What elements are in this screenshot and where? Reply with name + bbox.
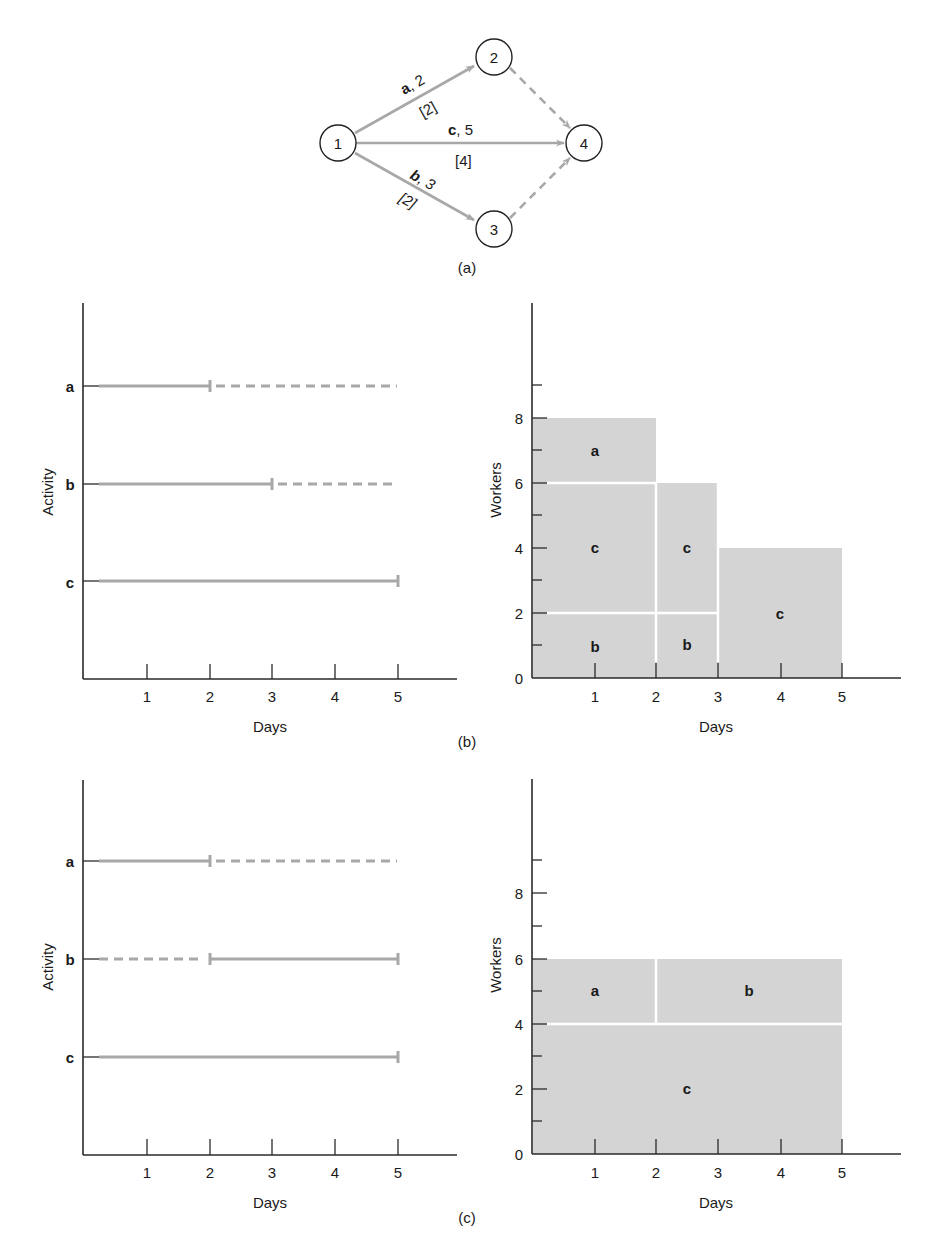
svg-text:[2]: [2]	[396, 188, 420, 212]
dummy-edge-3-4	[510, 158, 570, 218]
node-3-label: 3	[490, 221, 498, 238]
x-tick-1: 1	[143, 1164, 151, 1181]
y-tick-8: 8	[515, 410, 523, 427]
x-tick-1: 1	[143, 688, 151, 705]
y-axis-label: Workers	[487, 937, 504, 993]
caption-a: (a)	[458, 259, 476, 276]
y-tick-0: 0	[515, 1146, 523, 1163]
x-tick-4: 4	[777, 688, 785, 705]
x-tick-3: 3	[268, 1164, 276, 1181]
x-tick-1: 1	[591, 1164, 599, 1181]
x-tick-5: 5	[394, 1164, 402, 1181]
activity-b-label: b	[65, 951, 74, 968]
x-tick-1: 1	[591, 688, 599, 705]
activity-b-label: b	[65, 476, 74, 493]
y-tick-6: 6	[515, 475, 523, 492]
y-tick-0: 0	[515, 670, 523, 687]
block-label-a: a	[591, 982, 600, 999]
y-tick-8: 8	[515, 885, 523, 902]
block-label-c: c	[683, 1080, 691, 1097]
x-axis-label: Days	[253, 718, 287, 735]
block-days-0-5	[533, 959, 842, 1154]
node-1-label: 1	[334, 135, 342, 152]
y-axis-label: Activity	[39, 468, 56, 516]
edge-b-label: b, 3	[408, 166, 439, 194]
activity-c-label: c	[66, 1049, 74, 1066]
workers-chart-b: 0 2 4 6 8 1 2 3 4 5 Days Workers a c b c…	[487, 303, 901, 735]
dummy-edge-2-4	[510, 68, 570, 128]
block-label-b: b	[682, 636, 691, 653]
x-tick-5: 5	[838, 1164, 846, 1181]
block-label-c: c	[591, 539, 599, 556]
block-label-b: b	[590, 638, 599, 655]
activity-a-label: a	[66, 853, 75, 870]
x-tick-2: 2	[206, 1164, 214, 1181]
x-axis-label: Days	[253, 1194, 287, 1211]
y-tick-4: 4	[515, 540, 523, 557]
edge-a-workers: [2]	[416, 98, 439, 121]
x-tick-4: 4	[331, 688, 339, 705]
y-axis-label: Workers	[487, 462, 504, 518]
y-tick-2: 2	[515, 605, 523, 622]
workers-chart-c: 0 2 4 6 8 1 2 3 4 5 Days Workers a b c	[487, 779, 901, 1211]
x-tick-5: 5	[394, 688, 402, 705]
x-tick-4: 4	[777, 1164, 785, 1181]
block-label-b: b	[744, 982, 753, 999]
svg-text:b, 3: b, 3	[408, 166, 439, 194]
x-tick-4: 4	[331, 1164, 339, 1181]
x-tick-2: 2	[206, 688, 214, 705]
activity-a-label: a	[66, 378, 75, 395]
network-diagram: 1 2 3 4 a, 2 [2] c, 5 [4] b, 3 [2] (a)	[320, 39, 602, 276]
edge-b-workers: [2]	[396, 188, 420, 212]
gantt-chart-b: 1 2 3 4 5 Days Activity a b c	[39, 303, 457, 735]
caption-b: (b)	[458, 733, 476, 750]
x-tick-3: 3	[714, 1164, 722, 1181]
block-label-a: a	[591, 442, 600, 459]
x-tick-5: 5	[838, 688, 846, 705]
y-tick-6: 6	[515, 951, 523, 968]
x-tick-2: 2	[652, 1164, 660, 1181]
caption-c: (c)	[458, 1209, 476, 1226]
y-axis-label: Activity	[39, 943, 56, 991]
y-tick-2: 2	[515, 1081, 523, 1098]
x-tick-2: 2	[652, 688, 660, 705]
block-label-c: c	[776, 605, 784, 622]
block-label-c: c	[683, 539, 691, 556]
svg-text:[2]: [2]	[416, 98, 439, 121]
edge-c-label: c, 5	[448, 121, 473, 138]
y-tick-4: 4	[515, 1016, 523, 1033]
edge-c-workers: [4]	[455, 152, 472, 169]
activity-c-label: c	[66, 574, 74, 591]
x-tick-3: 3	[268, 688, 276, 705]
gantt-chart-c: 1 2 3 4 5 Days Activity a b c	[39, 780, 457, 1211]
x-tick-3: 3	[714, 688, 722, 705]
node-2-label: 2	[490, 49, 498, 66]
x-axis-label: Days	[699, 1194, 733, 1211]
figure: 1 2 3 4 a, 2 [2] c, 5 [4] b, 3 [2] (a)	[0, 0, 933, 1237]
node-4-label: 4	[580, 135, 588, 152]
x-axis-label: Days	[699, 718, 733, 735]
